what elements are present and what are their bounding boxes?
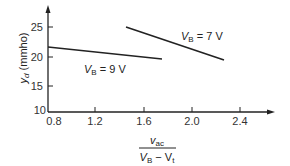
svg-text:15: 15 xyxy=(31,80,43,92)
svg-text:1.2: 1.2 xyxy=(87,115,102,127)
y-axis-label: yd (mmho) xyxy=(17,33,31,85)
svg-text:20: 20 xyxy=(31,51,43,63)
y-tick-labels: 25 20 15 10 xyxy=(31,21,46,116)
svg-text:0.8: 0.8 xyxy=(46,115,61,127)
x-tick-labels: 0.8 1.2 1.6 2.0 2.4 xyxy=(46,115,247,127)
chart: 25 20 15 10 0.8 1.2 1.6 2.0 2.4 yd (mmho… xyxy=(0,0,290,166)
x-axis-arrow xyxy=(267,110,275,115)
svg-text:2.0: 2.0 xyxy=(184,115,199,127)
series-vb-7v-label: VB = 7 V xyxy=(181,30,223,44)
x-ticks xyxy=(95,107,240,112)
y-axis-arrow xyxy=(46,5,51,13)
svg-text:10: 10 xyxy=(34,104,46,116)
y-ticks xyxy=(48,27,53,86)
x-axis-label: vac VB − Vt xyxy=(139,134,176,165)
svg-text:VB − Vt: VB − Vt xyxy=(140,151,176,165)
series-vb-9v-line xyxy=(48,47,162,59)
svg-text:2.4: 2.4 xyxy=(232,115,247,127)
svg-text:vac: vac xyxy=(150,134,164,148)
svg-text:25: 25 xyxy=(31,21,43,33)
series-vb-9v-label: VB = 9 V xyxy=(84,63,126,77)
svg-text:1.6: 1.6 xyxy=(136,115,151,127)
